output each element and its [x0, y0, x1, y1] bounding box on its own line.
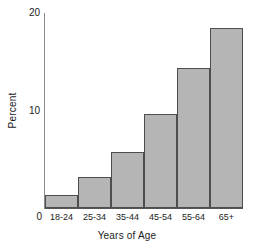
x-axis-title: Years of Age	[0, 230, 254, 241]
bar	[210, 28, 243, 208]
bar	[111, 152, 144, 208]
y-tick-label: 10	[14, 106, 40, 116]
y-tick-label: 20	[14, 8, 40, 18]
x-tick-label: 65+	[210, 211, 243, 223]
x-tick-label: 45-54	[144, 211, 177, 223]
x-axis-ticks: 18-2425-3435-4445-5455-6465+	[45, 211, 243, 225]
x-axis-line	[45, 208, 243, 209]
bar	[45, 195, 78, 208]
x-tick-label: 25-34	[78, 211, 111, 223]
bar	[177, 68, 210, 208]
bar	[78, 177, 111, 208]
bar-chart: Percent 20 10 0 18-2425-3435-4445-5455-6…	[0, 0, 254, 249]
bars-container	[45, 13, 243, 208]
x-tick-label: 35-44	[111, 211, 144, 223]
y-tick-label-zero: 0	[30, 211, 42, 223]
bar	[144, 114, 177, 208]
x-tick-label: 18-24	[45, 211, 78, 223]
x-tick-label: 55-64	[177, 211, 210, 223]
